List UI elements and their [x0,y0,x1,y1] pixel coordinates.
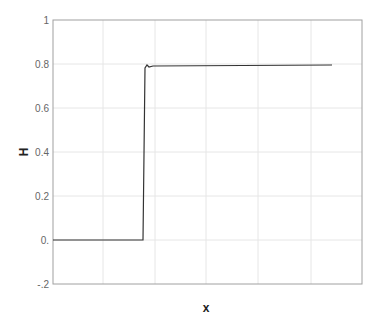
y-tick-minus-0.2: -.2 [37,279,49,290]
y-tick-0.4: 0.4 [35,147,49,158]
x-axis-label: x [203,301,210,315]
h-vs-x-chart: 1 0.8 0.6 0.4 0.2 0. -.2 H x [0,0,379,326]
y-tick-0: 0. [41,235,49,246]
y-tick-0.2: 0.2 [35,191,49,202]
y-tick-1: 1 [43,15,49,26]
y-tick-labels: 1 0.8 0.6 0.4 0.2 0. -.2 [35,15,49,290]
y-tick-0.8: 0.8 [35,59,49,70]
y-axis-label: H [17,148,31,157]
y-tick-0.6: 0.6 [35,103,49,114]
grid [53,20,362,284]
